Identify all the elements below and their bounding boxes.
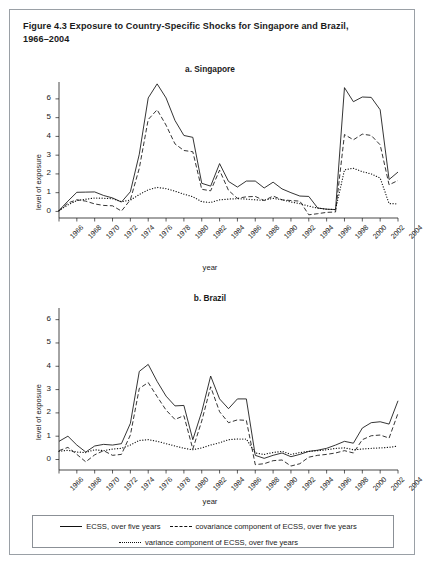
y-tick-label: 4: [39, 361, 51, 370]
y-tick-label: 6: [39, 314, 51, 323]
legend-label-ecss: ECSS, over five years: [86, 522, 160, 531]
y-tick-label: 2: [39, 168, 51, 177]
figure-frame: Figure 4.3 Exposure to Country-Specific …: [9, 9, 415, 555]
legend-row-1: ECSS, over five years covariance compone…: [33, 516, 393, 535]
series-line-dashed: [59, 383, 398, 466]
legend-swatch-solid-icon: [60, 523, 82, 530]
y-tick-label: 5: [39, 337, 51, 346]
y-tick-label: 2: [39, 407, 51, 416]
y-tick-label: 3: [39, 150, 51, 159]
legend-item-variance: variance component of ECSS, over five ye…: [119, 538, 307, 547]
y-tick-label: 0: [39, 206, 51, 215]
y-tick-label: 1: [39, 187, 51, 196]
series-line-solid: [59, 84, 398, 211]
chart-plot-singapore: [10, 10, 416, 280]
y-tick-label: 3: [39, 384, 51, 393]
y-tick-label: 1: [39, 431, 51, 440]
legend: ECSS, over five years covariance compone…: [32, 515, 394, 548]
y-tick-label: 5: [39, 112, 51, 121]
y-tick-label: 6: [39, 93, 51, 102]
legend-item-ecss: ECSS, over five years: [60, 522, 169, 531]
series-line-solid: [59, 364, 398, 458]
legend-swatch-dotted-icon: [119, 539, 141, 546]
y-tick-label: 0: [39, 454, 51, 463]
legend-label-covariance: covariance component of ECSS, over five …: [196, 522, 357, 531]
series-line-dotted: [59, 439, 398, 454]
legend-item-covariance: covariance component of ECSS, over five …: [170, 522, 366, 531]
y-tick-label: 4: [39, 131, 51, 140]
legend-row-2: variance component of ECSS, over five ye…: [33, 535, 393, 549]
legend-swatch-dashed-icon: [170, 523, 192, 530]
legend-label-variance: variance component of ECSS, over five ye…: [145, 538, 298, 547]
